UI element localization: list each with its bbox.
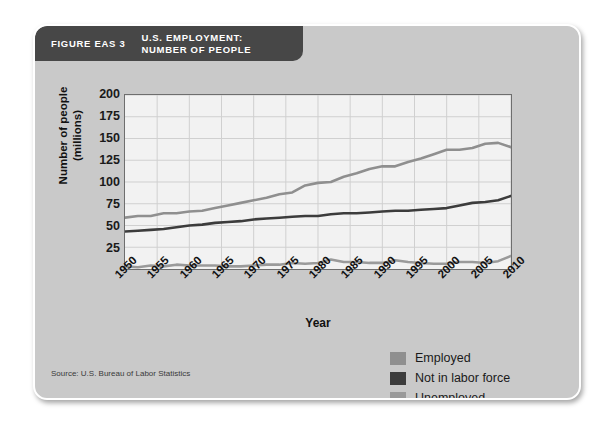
legend-label: Unemployed bbox=[415, 391, 485, 400]
y-axis-tick-50: 50 bbox=[82, 219, 120, 233]
y-axis-tick-125: 125 bbox=[82, 153, 120, 167]
plot-area bbox=[124, 94, 512, 270]
figure-title-banner: FIGURE EAS 3 U.S. EMPLOYMENT: NUMBER OF … bbox=[35, 26, 303, 61]
plot-wrapper bbox=[124, 94, 512, 270]
legend-swatch-icon bbox=[390, 392, 406, 401]
y-axis-tick-25: 25 bbox=[82, 241, 120, 255]
source-note: Source: U.S. Bureau of Labor Statistics bbox=[51, 369, 190, 378]
legend-item-unemployed[interactable]: Unemployed bbox=[390, 388, 510, 400]
x-axis-tick-labels: 1950195519601965197019751980198519901995… bbox=[124, 272, 512, 318]
y-axis-tick-labels: 255075100125150175200 bbox=[78, 94, 120, 270]
y-axis-tick-150: 150 bbox=[82, 131, 120, 145]
chart-series-lines bbox=[125, 95, 511, 269]
legend-item-not-in-labor-force[interactable]: Not in labor force bbox=[390, 368, 510, 388]
y-axis-tick-75: 75 bbox=[82, 197, 120, 211]
x-axis-title: Year bbox=[124, 316, 512, 330]
figure-title-text: U.S. EMPLOYMENT: NUMBER OF PEOPLE bbox=[141, 32, 251, 55]
legend-swatch-icon bbox=[390, 352, 406, 365]
y-axis-tick-175: 175 bbox=[82, 109, 120, 123]
chart-legend: EmployedNot in labor forceUnemployed bbox=[390, 348, 510, 400]
legend-item-employed[interactable]: Employed bbox=[390, 348, 510, 368]
legend-swatch-icon bbox=[390, 372, 406, 385]
legend-label: Not in labor force bbox=[415, 371, 510, 385]
legend-label: Employed bbox=[415, 351, 471, 365]
y-axis-tick-100: 100 bbox=[82, 175, 120, 189]
y-axis-tick-200: 200 bbox=[82, 87, 120, 101]
figure-frame: FIGURE EAS 3 U.S. EMPLOYMENT: NUMBER OF … bbox=[33, 24, 581, 400]
figure-number-label: FIGURE EAS 3 bbox=[51, 38, 125, 49]
